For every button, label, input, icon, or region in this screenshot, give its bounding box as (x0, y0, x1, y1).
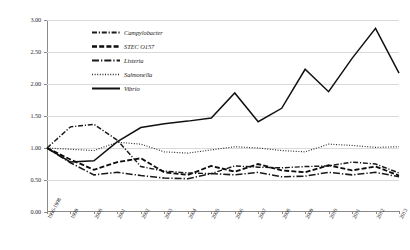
legend-label-vibrio: Vibrio (124, 85, 140, 92)
legend-label-salmonella: Salmonella (124, 71, 152, 78)
y-axis-tick-label: 3.00 (0, 16, 41, 23)
y-axis-tick-label: 0.50 (0, 176, 41, 183)
legend-item-campylobacter: Campylobacter (92, 25, 212, 39)
y-axis-tick-label: 0.00 (0, 208, 41, 215)
legend-swatch-vibrio (92, 85, 120, 92)
legend-swatch-stec-o157 (92, 43, 120, 50)
legend-swatch-campylobacter (92, 29, 120, 36)
legend-label-campylobacter: Campylobacter (124, 29, 163, 36)
y-axis-tick-label: 1.00 (0, 144, 41, 151)
x-axis-tick-label: 2013 (398, 208, 408, 220)
series-line-salmonella (47, 142, 399, 153)
legend-swatch-listeria (92, 57, 120, 64)
y-axis-tick-label: 2.00 (0, 80, 41, 87)
y-axis-tick-label: 1.50 (0, 112, 41, 119)
legend-item-stec-o157: STEC O157 (92, 39, 212, 53)
series-line-campylobacter (47, 124, 399, 173)
legend-item-salmonella: Salmonella (92, 68, 212, 82)
legend-label-listeria: Listeria (124, 57, 144, 64)
chart-legend: CampylobacterSTEC O157ListeriaSalmonella… (92, 25, 212, 96)
legend-item-listeria: Listeria (92, 53, 212, 67)
legend-swatch-salmonella (92, 71, 120, 78)
legend-label-stec-o157: STEC O157 (124, 43, 154, 50)
legend-item-vibrio: Vibrio (92, 82, 212, 96)
y-axis-tick-label: 2.50 (0, 48, 41, 55)
series-line-stec-o157 (47, 148, 399, 176)
chart-container: 0.000.501.001.502.002.503.00 1996-199819… (0, 0, 410, 250)
